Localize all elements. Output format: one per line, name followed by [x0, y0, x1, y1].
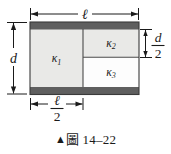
dim-left-label: d: [10, 51, 18, 66]
top-conductor-band: [30, 22, 139, 30]
caption-label: 圖 14–22: [66, 132, 116, 147]
dim-bottom-denominator: 2: [54, 109, 61, 124]
figure-caption: ▲圖 14–22: [0, 129, 171, 148]
dim-right-denominator: 2: [155, 46, 162, 61]
caption-triangle-marker: ▲: [55, 133, 66, 145]
dim-top-label: ℓ: [82, 7, 88, 22]
bottom-conductor-band: [30, 87, 139, 95]
dim-right-numerator: d: [155, 30, 162, 45]
dim-bottom-numerator: ℓ: [54, 93, 60, 108]
